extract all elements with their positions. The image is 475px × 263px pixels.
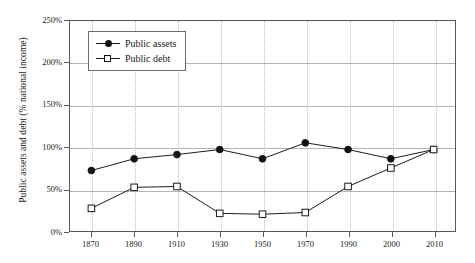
x-axis-tick-label: 1930 [200,239,240,249]
y-axis-tick-label: 100% [28,143,62,152]
data-point-public-debt [388,165,395,172]
data-point-public-debt [216,210,223,217]
x-axis-tick-mark [349,232,350,237]
y-axis-tick-label: 250% [28,16,62,25]
y-axis-tick-mark [64,232,69,233]
data-point-public-assets [259,155,266,162]
data-point-public-assets [302,139,309,146]
y-axis-tick-label: 200% [28,58,62,67]
y-axis-tick-label: 150% [28,100,62,109]
legend-marker-filled-circle-icon [96,38,120,50]
legend-label-public-assets: Public assets [125,38,176,50]
x-axis-tick-mark [306,232,307,237]
data-point-public-debt [174,183,181,190]
x-axis-tick-label: 1970 [286,239,326,249]
x-axis-tick-label: 1890 [114,239,154,249]
data-point-public-debt [345,183,352,190]
data-point-public-debt [131,184,138,191]
x-axis-tick-mark [134,232,135,237]
legend-item-public-assets: Public assets [96,36,176,51]
x-axis-tick-label: 1910 [157,239,197,249]
x-axis-tick-label: 1950 [243,239,283,249]
data-point-public-assets [387,155,394,162]
x-axis-tick-label: 2010 [415,239,455,249]
data-point-public-assets [216,146,223,153]
data-point-public-debt [430,146,437,153]
x-axis-tick-label: 1870 [71,239,111,249]
legend-item-public-debt: Public debt [96,51,176,66]
chart-container: Public assets and debt (% national incom… [0,0,475,263]
data-point-public-debt [302,209,309,216]
legend-marker-open-square-icon [96,53,120,65]
data-point-public-debt [88,205,95,212]
x-axis-tick-label: 2000 [372,239,412,249]
data-point-public-assets [174,151,181,158]
chart-legend: Public assets Public debt [88,31,186,71]
legend-label-public-debt: Public debt [125,53,170,65]
x-axis-tick-mark [220,232,221,237]
y-axis-tick-label: 0% [28,228,62,237]
x-axis-tick-mark [177,232,178,237]
data-point-public-assets [345,146,352,153]
data-point-public-assets [131,155,138,162]
data-point-public-assets [88,167,95,174]
data-point-public-debt [259,211,266,218]
y-axis-title: Public assets and debt (% national incom… [14,0,32,240]
x-axis-tick-mark [435,232,436,237]
x-axis-tick-mark [91,232,92,237]
x-axis-tick-mark [392,232,393,237]
y-axis-tick-label: 50% [28,185,62,194]
x-axis-tick-label: 1990 [329,239,369,249]
x-axis-tick-mark [263,232,264,237]
